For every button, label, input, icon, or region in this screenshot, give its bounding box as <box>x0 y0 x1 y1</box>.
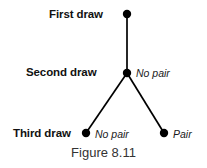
branch-label-second-draw-no-pair: No pair <box>136 67 170 79</box>
edge-second-to-third-pair <box>127 73 164 133</box>
stage-label-third-draw: Third draw <box>13 127 71 140</box>
stage-label-second-draw: Second draw <box>26 66 96 79</box>
stage-label-first-draw: First draw <box>49 8 103 21</box>
figure-caption: Figure 8.11 <box>0 145 207 161</box>
node-third-draw-nopair <box>82 129 90 137</box>
branch-label-third-draw-pair: Pair <box>173 128 192 140</box>
figure-8-11: First draw Second draw Third draw No pai… <box>0 0 207 168</box>
node-third-draw-pair <box>160 129 168 137</box>
node-second-draw-nopair <box>123 69 131 77</box>
edge-second-to-third-nopair <box>86 73 127 133</box>
branch-label-third-draw-no-pair: No pair <box>95 128 129 140</box>
node-first-draw <box>123 10 131 18</box>
probability-tree-graphic <box>0 0 207 168</box>
